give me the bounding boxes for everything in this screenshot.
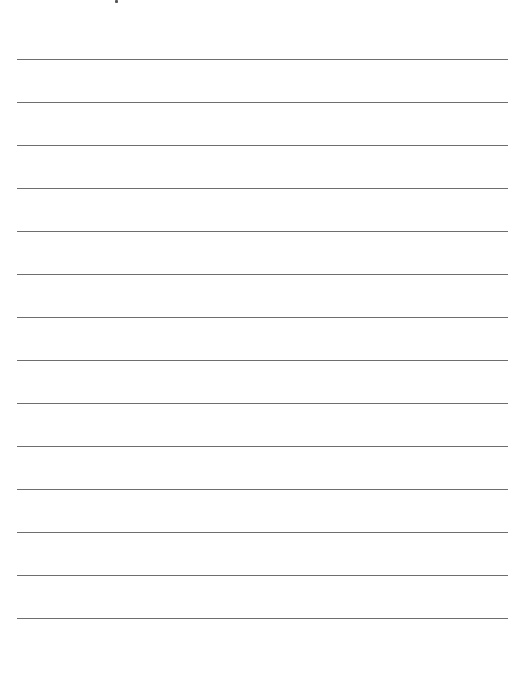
ruled-line	[17, 231, 508, 232]
lined-paper-sheet	[0, 0, 522, 698]
ruled-line	[17, 446, 508, 447]
ruled-line	[17, 102, 508, 103]
ruled-line	[17, 188, 508, 189]
ruled-line	[17, 274, 508, 275]
ruled-line	[17, 575, 508, 576]
ruled-line	[17, 59, 508, 60]
ruled-line	[17, 145, 508, 146]
ruled-line	[17, 317, 508, 318]
ruled-line	[17, 360, 508, 361]
ruled-line	[17, 403, 508, 404]
scan-speck	[115, 0, 118, 3]
ruled-line	[17, 618, 508, 619]
ruled-line	[17, 489, 508, 490]
ruled-line	[17, 532, 508, 533]
